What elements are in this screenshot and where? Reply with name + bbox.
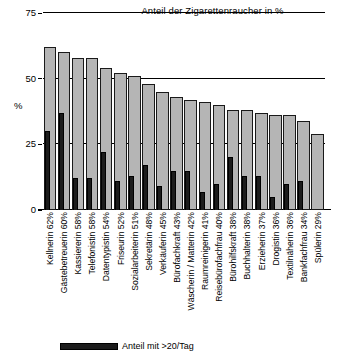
bar-slot bbox=[254, 13, 268, 210]
legend: Anteil mit >20/Tag bbox=[60, 341, 194, 351]
x-category-label: Gästebetreuerin 60% bbox=[57, 212, 71, 332]
bar-chart: Anteil der Zigarettenraucher in % % 0255… bbox=[0, 0, 339, 358]
bar-heavy-smokers bbox=[73, 178, 78, 210]
bar-total-smokers bbox=[311, 134, 324, 210]
x-category-label-text: Spülerin 29% bbox=[313, 212, 322, 263]
x-category-label: Wäscherin / Matterin 42% bbox=[184, 212, 198, 332]
bar-slot bbox=[283, 13, 297, 210]
x-category-label-text: Buchhalterin 38% bbox=[243, 212, 252, 279]
y-tick-50: 50 bbox=[14, 73, 36, 84]
bar-slot bbox=[156, 13, 170, 210]
bar-slot bbox=[128, 13, 142, 210]
bar-heavy-smokers bbox=[59, 113, 64, 210]
x-category-label-text: Sekretärin 48% bbox=[144, 212, 153, 271]
bar-heavy-smokers bbox=[284, 184, 289, 210]
bar-heavy-smokers bbox=[242, 176, 247, 210]
bar-heavy-smokers bbox=[45, 131, 50, 210]
x-category-label-text: Kassiererin 58% bbox=[74, 212, 83, 275]
bar-slot bbox=[184, 13, 198, 210]
x-category-label: Spülerin 29% bbox=[311, 212, 325, 332]
x-category-label-text: Wäscherin / Matterin 42% bbox=[187, 212, 196, 310]
bar-heavy-smokers bbox=[87, 178, 92, 210]
y-tick-dash bbox=[38, 13, 42, 14]
legend-swatch-heavy-smokers bbox=[60, 343, 118, 350]
x-category-label-text: Sozialarbeiterin 51% bbox=[130, 212, 139, 291]
bar-heavy-smokers bbox=[171, 171, 176, 210]
bar-slot bbox=[85, 13, 99, 210]
bar-slot bbox=[269, 13, 283, 210]
y-tick-dash bbox=[38, 144, 42, 145]
x-category-label: Sozialarbeiterin 51% bbox=[128, 212, 142, 332]
x-category-label: Kassiererin 58% bbox=[71, 212, 85, 332]
bar-slot bbox=[198, 13, 212, 210]
x-category-label: Kellnerin 62% bbox=[43, 212, 57, 332]
x-category-label: Drogistin 36% bbox=[269, 212, 283, 332]
bar-slot bbox=[57, 13, 71, 210]
bar-heavy-smokers bbox=[115, 181, 120, 210]
bar-slot bbox=[297, 13, 311, 210]
bar-heavy-smokers bbox=[129, 176, 134, 210]
bar-slot bbox=[226, 13, 240, 210]
x-category-label: Reisebürofachfrau 40% bbox=[212, 212, 226, 332]
x-category-label-text: Bürofachkraft 43% bbox=[172, 212, 181, 283]
x-category-label: Sekretärin 48% bbox=[142, 212, 156, 332]
legend-label-heavy-smokers: Anteil mit >20/Tag bbox=[122, 341, 194, 351]
bar-heavy-smokers bbox=[214, 184, 219, 210]
y-tick-75: 75 bbox=[14, 7, 36, 18]
x-category-label-text: Kellnerin 62% bbox=[46, 212, 55, 265]
x-category-label-text: Datentypistin 54% bbox=[102, 212, 111, 281]
bar-slot bbox=[170, 13, 184, 210]
x-category-label-text: Drogistin 36% bbox=[271, 212, 280, 266]
bar-heavy-smokers bbox=[185, 171, 190, 210]
x-category-label-text: Erzieherin 37% bbox=[257, 212, 266, 270]
bar-total-smokers bbox=[269, 115, 282, 210]
bar-heavy-smokers bbox=[298, 181, 303, 210]
x-category-label: Datentypistin 54% bbox=[99, 212, 113, 332]
y-tick-0: 0 bbox=[14, 204, 36, 215]
x-category-label: Bürofachkraft 43% bbox=[170, 212, 184, 332]
bar-heavy-smokers bbox=[101, 152, 106, 210]
bar-slot bbox=[113, 13, 127, 210]
x-category-label-text: Bankfachfrau 34% bbox=[299, 212, 308, 282]
bar-slot bbox=[240, 13, 254, 210]
x-category-label: Textilnäherin 36% bbox=[283, 212, 297, 332]
bar-heavy-smokers bbox=[228, 157, 233, 210]
x-category-label: Telefonistin 58% bbox=[85, 212, 99, 332]
bar-slot bbox=[99, 13, 113, 210]
bar-heavy-smokers bbox=[270, 197, 275, 210]
x-category-label-text: Bürohilfskraft 38% bbox=[229, 212, 238, 282]
y-tick-25: 25 bbox=[14, 138, 36, 149]
x-category-label: Bankfachfrau 34% bbox=[297, 212, 311, 332]
x-category-label-text: Raumreinigerin 41% bbox=[201, 212, 210, 290]
x-category-label: Bürohilfskraft 38% bbox=[226, 212, 240, 332]
x-category-label: Verkäuferin 45% bbox=[156, 212, 170, 332]
x-category-label: Raumreinigerin 41% bbox=[198, 212, 212, 332]
bar-slot bbox=[311, 13, 325, 210]
bar-heavy-smokers bbox=[157, 186, 162, 210]
plot-area bbox=[43, 13, 325, 210]
bar-slot bbox=[142, 13, 156, 210]
x-category-label-text: Gästebetreuerin 60% bbox=[60, 212, 69, 293]
x-category-label-text: Verkäuferin 45% bbox=[158, 212, 167, 275]
bar-heavy-smokers bbox=[256, 176, 261, 210]
x-category-label-text: Telefonistin 58% bbox=[88, 212, 97, 275]
x-category-label-text: Textilnäherin 36% bbox=[285, 212, 294, 280]
bar-slot bbox=[212, 13, 226, 210]
x-category-label: Buchhalterin 38% bbox=[240, 212, 254, 332]
y-tick-dash bbox=[38, 78, 42, 79]
x-category-label: Friseurin 52% bbox=[114, 212, 128, 332]
x-axis-category-labels: Kellnerin 62%Gästebetreuerin 60%Kassiere… bbox=[43, 212, 325, 332]
x-category-label-text: Reisebürofachfrau 40% bbox=[215, 212, 224, 302]
bar-heavy-smokers bbox=[143, 165, 148, 210]
x-category-label: Erzieherin 37% bbox=[255, 212, 269, 332]
bar-slot bbox=[43, 13, 57, 210]
x-category-label-text: Friseurin 52% bbox=[116, 212, 125, 265]
bar-group bbox=[43, 13, 325, 210]
y-axis-label: % bbox=[14, 100, 22, 111]
bar-slot bbox=[71, 13, 85, 210]
bar-heavy-smokers bbox=[200, 192, 205, 210]
